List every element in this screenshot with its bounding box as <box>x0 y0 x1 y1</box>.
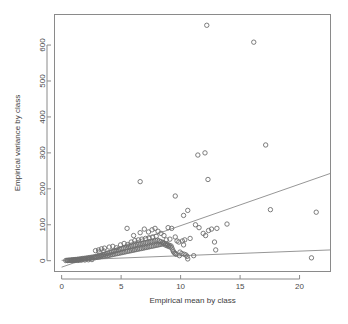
chart-canvas: 0100200300400500600 05101520 Empirical m… <box>0 0 348 324</box>
x-tick-label: 20 <box>295 282 304 291</box>
y-tick-label: 100 <box>38 218 47 232</box>
x-tick-label: 0 <box>59 282 64 291</box>
y-tick-label: 600 <box>38 38 47 52</box>
y-tick-label: 300 <box>38 146 47 160</box>
y-tick-label: 200 <box>38 182 47 196</box>
x-tick-label: 10 <box>176 282 185 291</box>
x-tick-label: 15 <box>236 282 245 291</box>
y-tick-label: 0 <box>38 258 47 263</box>
x-tick-label: 5 <box>119 282 124 291</box>
y-tick-label: 500 <box>38 74 47 88</box>
y-tick-label: 400 <box>38 110 47 124</box>
x-axis-title: Empirical mean by class <box>149 296 235 305</box>
figure-background <box>0 0 348 324</box>
y-axis-title: Empirical variance by class <box>13 95 22 191</box>
scatter-plot-figure: 0100200300400500600 05101520 Empirical m… <box>0 0 348 324</box>
